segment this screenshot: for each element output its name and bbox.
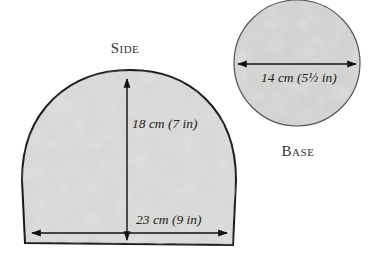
base-diameter-dimension: 14 cm (5½ in)	[261, 70, 337, 86]
base-piece	[234, 0, 360, 126]
side-piece	[22, 70, 236, 245]
side-label: Side	[111, 40, 140, 57]
base-label: Base	[282, 143, 315, 160]
side-width-dimension: 23 cm (9 in)	[136, 212, 202, 228]
side-height-dimension: 18 cm (7 in)	[132, 116, 198, 132]
